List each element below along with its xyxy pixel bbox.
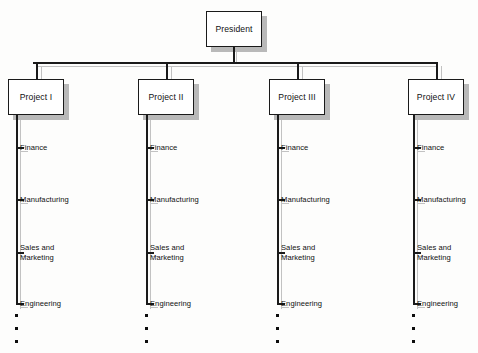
president-box[interactable]: President xyxy=(206,11,262,47)
ellipsis-dot xyxy=(15,314,18,317)
ellipsis-dot xyxy=(412,327,415,330)
project-box-4[interactable]: Project IV xyxy=(408,79,464,115)
branch-label: Sales and Marketing xyxy=(281,243,315,262)
project-riser xyxy=(297,62,299,79)
project-riser xyxy=(36,62,38,79)
org-chart-canvas: President Project IFinanceManufacturingS… xyxy=(0,0,478,353)
branch-label: Sales and Marketing xyxy=(417,243,451,262)
president-stem xyxy=(233,47,235,63)
project-label: Project II xyxy=(149,93,184,102)
ellipsis-dot xyxy=(276,314,279,317)
ellipsis-dot xyxy=(15,340,18,343)
ellipsis-dot xyxy=(412,314,415,317)
distribution-bus-shadow xyxy=(38,66,437,67)
branch-label: Manufacturing xyxy=(281,195,330,204)
branch-label: Finance xyxy=(20,143,47,152)
ellipsis-dot xyxy=(412,340,415,343)
project-label: Project IV xyxy=(417,93,455,102)
branch-label: Finance xyxy=(150,143,177,152)
branch-label: Sales and Marketing xyxy=(20,243,54,262)
project-label: Project I xyxy=(20,93,52,102)
ellipsis-dot xyxy=(145,327,148,330)
distribution-bus xyxy=(33,62,437,64)
project-spine xyxy=(413,115,415,305)
branch-label: Manufacturing xyxy=(20,195,69,204)
project-spine xyxy=(146,115,148,305)
ellipsis-dot xyxy=(145,314,148,317)
branch-label: Manufacturing xyxy=(150,195,199,204)
ellipsis-dot xyxy=(145,340,148,343)
project-box-3[interactable]: Project III xyxy=(269,79,325,115)
project-box-1[interactable]: Project I xyxy=(8,79,64,115)
branch-label: Finance xyxy=(281,143,308,152)
ellipsis-dot xyxy=(276,340,279,343)
branch-label: Sales and Marketing xyxy=(150,243,184,262)
branch-label: Engineering xyxy=(150,299,191,308)
ellipsis-dot xyxy=(15,327,18,330)
project-spine xyxy=(277,115,279,305)
branch-label: Engineering xyxy=(20,299,61,308)
project-box-2[interactable]: Project II xyxy=(138,79,194,115)
branch-label: Engineering xyxy=(281,299,322,308)
project-spine xyxy=(16,115,18,305)
branch-label: Manufacturing xyxy=(417,195,466,204)
branch-label: Engineering xyxy=(417,299,458,308)
project-riser xyxy=(166,62,168,79)
project-label: Project III xyxy=(278,93,315,102)
project-riser xyxy=(436,62,438,79)
ellipsis-dot xyxy=(276,327,279,330)
president-label: President xyxy=(215,25,252,34)
branch-label: Finance xyxy=(417,143,444,152)
